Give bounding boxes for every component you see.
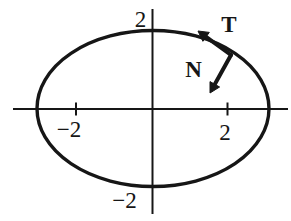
ellipse-tangent-normal-figure: 2 −2 −2 2 T N	[0, 0, 291, 221]
tangent-vector-shaft	[206, 37, 231, 55]
x-axis-left-label: −2	[57, 117, 81, 142]
y-axis-top-label: 2	[135, 7, 147, 32]
tangent-vector-label: T	[221, 12, 236, 37]
normal-vector-shaft	[215, 55, 231, 84]
normal-vector-arrow	[210, 55, 231, 93]
figure-canvas: 2 −2 −2 2 T N	[0, 0, 291, 221]
x-axis-right-label: 2	[219, 120, 231, 145]
normal-vector-label: N	[185, 57, 202, 82]
y-axis-bottom-label: −2	[112, 188, 136, 213]
